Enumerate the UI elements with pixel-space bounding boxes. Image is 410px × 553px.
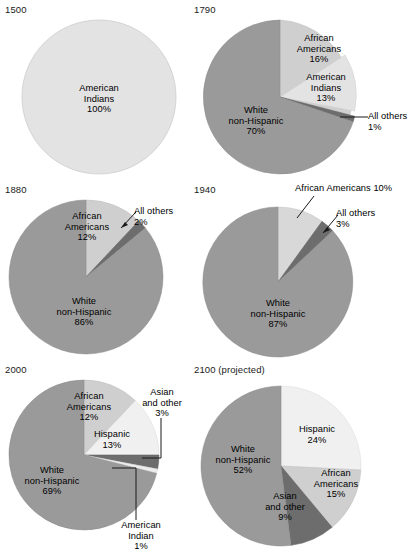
label-line-1: African Americans 10%	[295, 183, 410, 194]
label-line-3: 1%	[104, 541, 178, 552]
panel-title-2000: 2000	[5, 364, 27, 375]
label-line-1: American	[291, 72, 361, 83]
label-line-2: Americans	[50, 222, 124, 233]
label-line-1: American	[55, 83, 143, 94]
label-line-1: White	[235, 298, 321, 309]
leader-line-african-americans-1940	[292, 194, 318, 222]
label-line-2: non-Hispanic	[198, 455, 288, 466]
label-line-3: 86%	[41, 317, 127, 328]
label-line-3: 52%	[198, 465, 288, 476]
panel-1940: 1940 African Americans 10% All others 3%…	[190, 180, 410, 360]
label-line-1: White	[41, 296, 127, 307]
pie-label-hispanic: Hispanic 24%	[285, 424, 349, 445]
label-line-1: White	[213, 105, 299, 116]
pie-label-asian-and-other: Asian and other 9%	[252, 491, 318, 523]
pie-label-all-others: All others 1%	[368, 111, 410, 132]
label-line-1: African	[282, 33, 356, 44]
panel-2100: 2100 (projected) Hispanic 24% African Am…	[190, 360, 410, 553]
label-line-1: Hispanic	[285, 424, 349, 435]
pie-label-white-non-hispanic: White non-Hispanic 70%	[213, 105, 299, 137]
panel-1880: 1880 African Americans 12% All others 2%…	[0, 180, 190, 360]
label-line-3: 69%	[8, 486, 96, 497]
label-line-1: Hispanic	[81, 429, 143, 440]
label-line-2: 3%	[336, 219, 388, 230]
label-line-2: non-Hispanic	[8, 476, 96, 487]
label-line-1: White	[8, 465, 96, 476]
label-line-2: Indians	[291, 83, 361, 94]
panel-2000: 2000 African Americans 12% Hispanic 13% …	[0, 360, 190, 553]
label-line-2: non-Hispanic	[235, 309, 321, 320]
label-line-2: Americans	[298, 479, 374, 490]
pie-label-african-americans: African Americans 12%	[50, 211, 124, 243]
pie-label-white-non-hispanic: White non-Hispanic 69%	[8, 465, 96, 497]
leader-line-american-indian-2000	[110, 468, 148, 524]
pie-label-african-americans: African Americans 10%	[295, 183, 410, 194]
pie-label-american-indians: American Indians 13%	[291, 72, 361, 104]
panel-title-1880: 1880	[5, 184, 27, 195]
label-line-2: Americans	[282, 44, 356, 55]
panel-title-1790: 1790	[194, 4, 216, 15]
label-line-1: American	[104, 520, 178, 531]
label-line-1: Asian	[252, 491, 318, 502]
pie-label-american-indians: American Indians 100%	[55, 83, 143, 115]
label-line-2: 13%	[81, 440, 143, 451]
panel-1500: 1500 American Indians 100%	[0, 0, 190, 180]
label-line-1: All others	[336, 208, 388, 219]
pie-label-hispanic: Hispanic 13%	[81, 429, 143, 450]
label-line-2: and other	[252, 502, 318, 513]
label-line-3: 100%	[55, 104, 143, 115]
label-line-3: 16%	[282, 54, 356, 65]
label-line-1: White	[198, 444, 288, 455]
pie-label-asian-and-other: Asian and other 3%	[131, 387, 193, 419]
leader-line-asian-and-other-2000	[140, 418, 174, 462]
label-line-1: Asian	[131, 387, 193, 398]
label-line-1: All others	[368, 111, 410, 122]
label-line-1: All others	[134, 206, 184, 217]
label-line-2: Indians	[55, 94, 143, 105]
panel-title-2100: 2100 (projected)	[194, 364, 265, 375]
label-line-2: and other	[131, 398, 193, 409]
label-line-2: 2%	[134, 217, 184, 228]
pie-label-all-others: All others 3%	[336, 208, 388, 229]
label-line-2: 24%	[285, 435, 349, 446]
label-line-1: African	[50, 211, 124, 222]
pie-label-white-non-hispanic: White non-Hispanic 87%	[235, 298, 321, 330]
label-line-3: 70%	[213, 126, 299, 137]
panel-title-1940: 1940	[194, 184, 216, 195]
pie-label-white-non-hispanic: White non-Hispanic 86%	[41, 296, 127, 328]
pie-label-african-americans: African Americans 12%	[51, 391, 127, 423]
panel-title-1500: 1500	[5, 4, 27, 15]
pie-label-american-indian: American Indian 1%	[104, 520, 178, 552]
panel-1790: 1790 African Americans 16% American Indi…	[190, 0, 410, 180]
label-line-2: Americans	[51, 402, 127, 413]
label-line-2: non-Hispanic	[213, 116, 299, 127]
label-line-2: non-Hispanic	[41, 307, 127, 318]
label-line-3: 9%	[252, 512, 318, 523]
pie-label-white-non-hispanic: White non-Hispanic 52%	[198, 444, 288, 476]
label-line-3: 87%	[235, 319, 321, 330]
label-line-1: African	[298, 468, 374, 479]
label-line-3: 13%	[291, 93, 361, 104]
label-line-2: Indian	[104, 531, 178, 542]
label-line-3: 12%	[50, 232, 124, 243]
label-line-2: 1%	[368, 122, 410, 133]
label-line-1: African	[51, 391, 127, 402]
label-line-3: 12%	[51, 412, 127, 423]
pie-label-african-americans: African Americans 16%	[282, 33, 356, 65]
pie-label-all-others: All others 2%	[134, 206, 184, 227]
